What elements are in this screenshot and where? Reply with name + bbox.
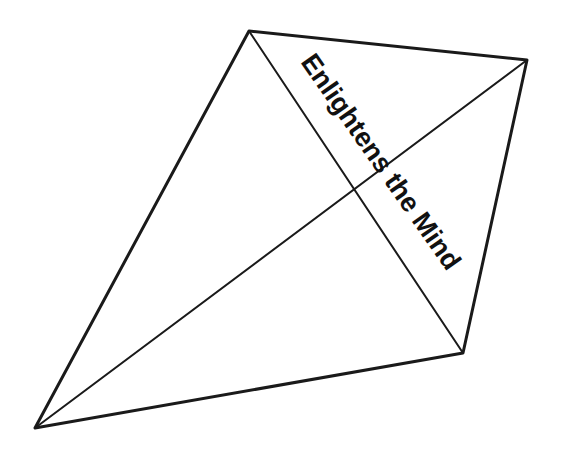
kite-drawing: Enlightens the Mind (0, 0, 563, 458)
kite-outline (35, 31, 527, 428)
diagonal-top-to-bottom-right (249, 31, 463, 353)
kite-label: Enlightens the Mind (295, 48, 467, 275)
